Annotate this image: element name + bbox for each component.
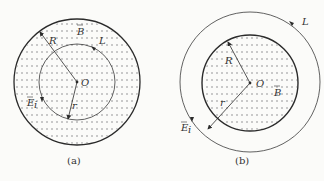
center-point [249,82,252,85]
label-R: R [224,55,233,66]
label-E-sub: i [34,99,37,110]
figure-a: R B L O r E i (a) [14,19,140,166]
label-B: B [273,87,281,98]
label-L: L [301,16,309,27]
label-O: O [81,77,89,88]
caption-a: (a) [67,155,81,166]
label-O: O [256,78,264,89]
label-L: L [98,35,106,46]
diagram-canvas: R B L O r E i (a) R O B L r E i (b) [0,0,324,181]
label-B: B [76,26,84,37]
center-point [76,81,79,84]
figure-b: R O B L r E i (b) [180,12,320,166]
label-E-sub: i [188,124,191,135]
caption-b: (b) [235,155,249,166]
label-R: R [48,35,57,46]
